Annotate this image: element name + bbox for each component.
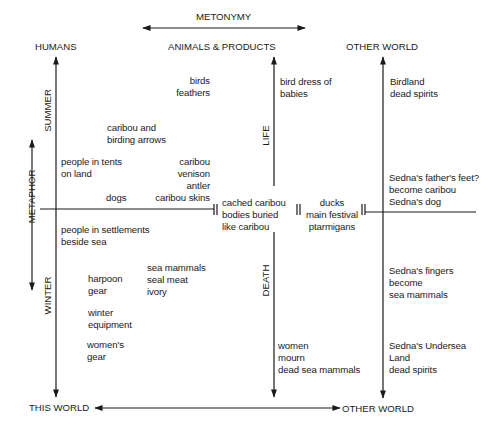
sea-mammal-products: sea mammals seal meat ivory — [147, 262, 206, 298]
humans-heading: HUMANS — [35, 41, 77, 53]
animals-products-heading: ANIMALS & PRODUCTS — [168, 41, 276, 53]
caribou-birding-arrows: caribou and birding arrows — [107, 122, 166, 146]
sednas-undersea-land: Sedna's Undersea Land dead spirits — [389, 340, 466, 376]
womens-gear: women's gear — [87, 339, 124, 363]
harpoon-gear: harpoon gear — [88, 273, 123, 297]
death-label: DEATH — [260, 257, 271, 305]
life-label: LIFE — [260, 121, 271, 151]
dogs: dogs — [106, 192, 126, 204]
birdland: Birdland dead spirits — [390, 76, 438, 100]
metaphor-label: METAPHOR — [26, 162, 37, 232]
people-in-settlements: people in settlements beside sea — [61, 224, 150, 248]
birds-feathers: birds feathers — [150, 75, 210, 99]
main-festival: ducks main festival ptarmigans — [302, 197, 362, 233]
other-world-bottom-label: OTHER WORLD — [342, 403, 414, 415]
this-world-label: THIS WORLD — [29, 402, 89, 414]
sednas-father: Sedna's father's feet? become caribou Se… — [389, 172, 479, 208]
other-world-heading: OTHER WORLD — [346, 41, 418, 53]
winter-equipment: winter equipment — [88, 307, 132, 331]
winter-label: WINTER — [42, 271, 53, 321]
caribou-products: caribou venison antler caribou skins — [140, 156, 210, 204]
sednas-fingers: Sedna's fingers become sea mammals — [389, 265, 453, 301]
bird-dress-of-babies: bird dress of babies — [280, 76, 332, 100]
summer-label: SUMMER — [42, 86, 53, 136]
cached-caribou: cached caribou bodies buried like caribo… — [222, 197, 286, 233]
metonymy-label: METONYMY — [196, 11, 251, 23]
women-mourn: women mourn dead sea mammals — [278, 340, 360, 376]
people-in-tents: people in tents on land — [61, 156, 122, 180]
